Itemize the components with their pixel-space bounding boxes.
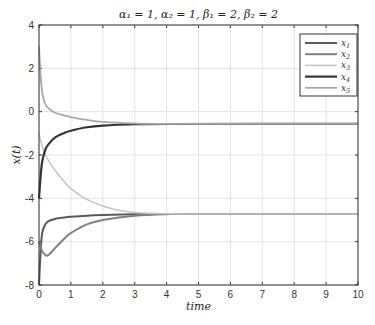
x-tick-label: 8 bbox=[291, 289, 297, 300]
y-tick-label: 2 bbox=[28, 63, 34, 74]
x-tick-label: 5 bbox=[196, 289, 202, 300]
x-tick-label: 10 bbox=[352, 289, 364, 300]
y-axis-label: x(t) bbox=[10, 145, 23, 164]
legend: x1x2x3x4x5 bbox=[300, 34, 357, 96]
x-tick-label: 4 bbox=[164, 289, 170, 300]
x-axis-label: time bbox=[186, 300, 211, 313]
x-tick-label: 7 bbox=[260, 289, 266, 300]
y-tick-label: -2 bbox=[25, 150, 34, 161]
x-tick-label: 2 bbox=[100, 289, 106, 300]
y-tick-label: -4 bbox=[25, 193, 34, 204]
y-tick-label: -6 bbox=[25, 236, 34, 247]
y-tick-label: 4 bbox=[28, 20, 34, 31]
x-tick-label: 1 bbox=[68, 289, 74, 300]
chart-title: α₁ = 1, α₂ = 1, β₁ = 2, β₂ = 2 bbox=[119, 8, 278, 21]
x-tick-label: 0 bbox=[36, 289, 42, 300]
y-tick-label: 0 bbox=[28, 106, 34, 117]
x-tick-label: 3 bbox=[132, 289, 138, 300]
y-tick-label: -8 bbox=[25, 280, 34, 291]
x-tick-label: 6 bbox=[228, 289, 234, 300]
line-chart: 012345678910 420-2-4-6-8 α₁ = 1, α₂ = 1,… bbox=[0, 0, 375, 325]
x-tick-label: 9 bbox=[323, 289, 329, 300]
